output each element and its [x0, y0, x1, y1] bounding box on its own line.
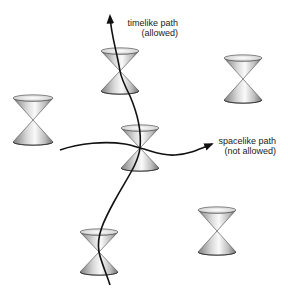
timelike-label-line2: (allowed) [127, 28, 178, 38]
light-cones [13, 48, 262, 275]
light-cone-right-bottom [198, 207, 236, 255]
spacetime-diagram: timelike path (allowed) spacelike path (… [0, 0, 288, 301]
spacelike-label-line2: (not allowed) [218, 146, 276, 156]
spacelike-path-label: spacelike path (not allowed) [218, 136, 276, 156]
light-cone-left [13, 95, 53, 145]
spacelike-label-line1: spacelike path [218, 136, 276, 146]
timelike-path-label: timelike path (allowed) [127, 18, 178, 38]
light-cone-right-top [224, 55, 262, 103]
timelike-label-line1: timelike path [127, 18, 178, 28]
